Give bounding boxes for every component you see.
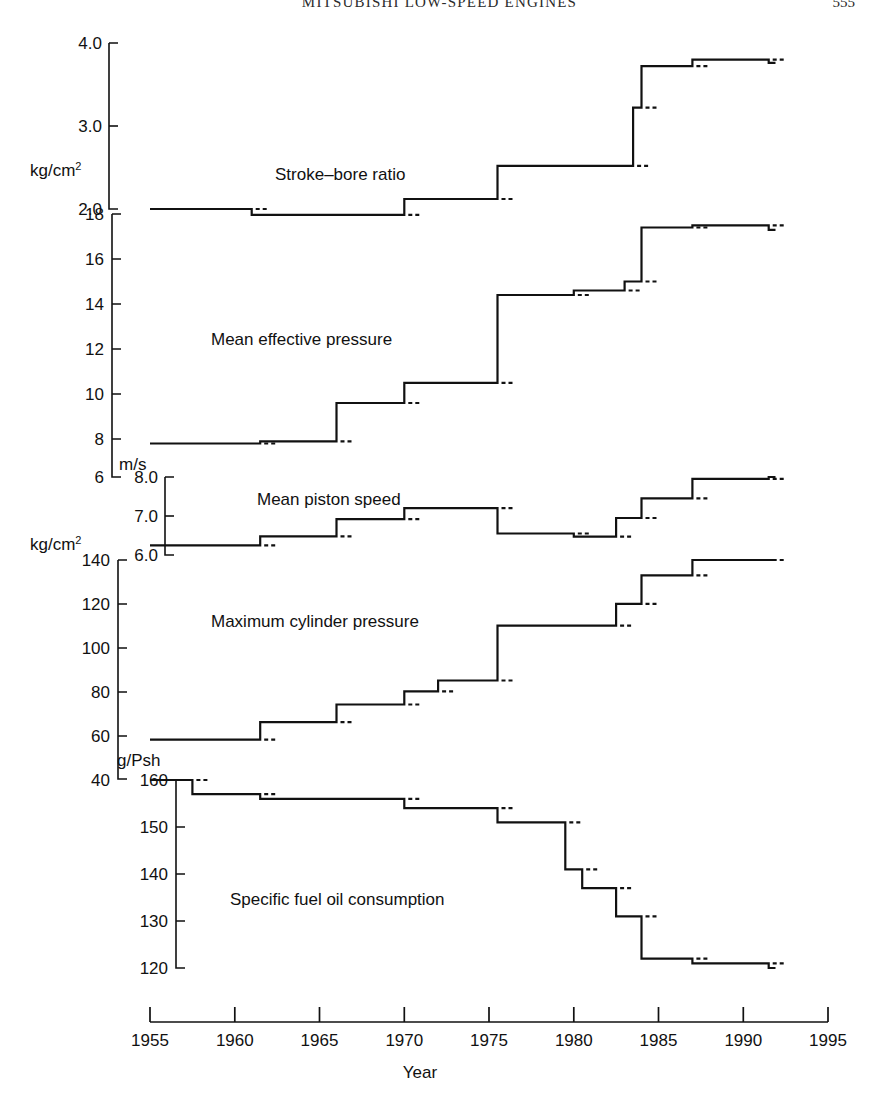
ytick-mp-1: 120 <box>82 595 110 614</box>
ytick-mep-3: 12 <box>85 340 104 359</box>
yaxis-unit-sfoc: g/Psh <box>117 751 160 770</box>
xaxis-label: Year <box>403 1063 438 1082</box>
ytick-ps-0: 8.0 <box>134 468 158 487</box>
xtick-3: 1970 <box>385 1031 423 1050</box>
ytick-ps-2: 6.0 <box>134 546 158 565</box>
ytick-mep-2: 14 <box>85 295 104 314</box>
yaxis-max-pressure: 140 120 100 80 60 40 g/Psh <box>82 551 161 790</box>
xtick-0: 1955 <box>131 1031 169 1050</box>
yaxis-mep: 18 16 14 12 10 8 m/s <box>85 205 146 474</box>
ytick-mep-0: 18 <box>85 205 104 224</box>
ytick-sf-1: 150 <box>140 818 168 837</box>
ytick-mep-5: 8 <box>95 430 104 449</box>
xtick-6: 1985 <box>640 1031 678 1050</box>
yaxis-unit-stroke-bore: kg/cm2 <box>30 160 81 180</box>
ytick-mp-2: 100 <box>82 639 110 658</box>
series-label-max-pressure: Maximum cylinder pressure <box>211 612 419 631</box>
ytick-sf-4: 120 <box>140 959 168 978</box>
ytick-mp-0: 140 <box>82 551 110 570</box>
series-line <box>150 780 776 968</box>
xtick-5: 1980 <box>555 1031 593 1050</box>
series-label-sfoc: Specific fuel oil consumption <box>230 890 445 909</box>
xtick-4: 1975 <box>470 1031 508 1050</box>
series-line <box>150 560 776 740</box>
xtick-1: 1960 <box>216 1031 254 1050</box>
ytick-sf-3: 130 <box>140 912 168 931</box>
yaxis-sfoc: 160 150 140 130 120 <box>140 771 185 978</box>
chart-svg: 4.0 3.0 2.0 kg/cm2 18 16 14 12 10 8 m/s … <box>0 0 879 1097</box>
ytick-mp-3: 80 <box>91 683 110 702</box>
series-label-mep: Mean effective pressure <box>211 330 392 349</box>
yaxis-stroke-bore: 4.0 3.0 2.0 kg/cm2 <box>30 34 118 219</box>
ytick-mep-4: 10 <box>85 385 104 404</box>
ytick-sb-0: 4.0 <box>78 34 102 53</box>
yaxis-unit-max-pressure: kg/cm2 <box>30 534 81 554</box>
series-label-piston-speed: Mean piston speed <box>257 490 401 509</box>
ytick-mp-4: 60 <box>91 727 110 746</box>
ytick-sf-2: 140 <box>140 865 168 884</box>
series-line <box>150 60 776 215</box>
series-line <box>150 477 776 545</box>
ytick-mp-5: 40 <box>91 771 110 790</box>
xtick-2: 1965 <box>301 1031 339 1050</box>
series-layer <box>150 60 784 968</box>
ytick-ps-1: 7.0 <box>134 507 158 526</box>
xtick-7: 1990 <box>724 1031 762 1050</box>
ytick-mep-1: 16 <box>85 250 104 269</box>
xtick-8: 1995 <box>809 1031 847 1050</box>
ytick-ps-axislow: 6 <box>95 468 104 487</box>
series-label-stroke-bore: Stroke–bore ratio <box>275 165 405 184</box>
xaxis-year: 1955 1960 1965 1970 1975 1980 1985 1990 … <box>131 1007 847 1082</box>
ytick-sb-1: 3.0 <box>78 117 102 136</box>
engine-trends-figure: 4.0 3.0 2.0 kg/cm2 18 16 14 12 10 8 m/s … <box>0 0 879 1097</box>
